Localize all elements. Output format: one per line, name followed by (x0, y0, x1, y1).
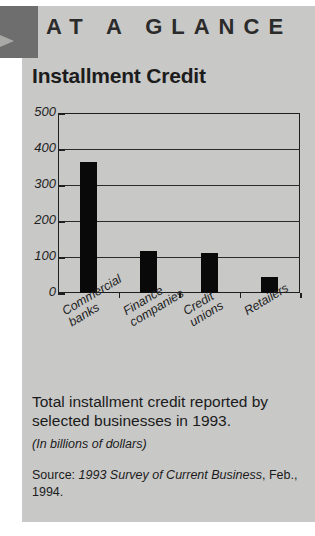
left-margin (0, 58, 22, 536)
banner-title: AT A GLANCE (46, 14, 292, 40)
triangle-right-icon (0, 30, 14, 52)
units-note: (In billions of dollars) (32, 437, 300, 451)
bottom-margin (0, 522, 315, 536)
header-accent-block (0, 6, 38, 58)
source-prefix: Source: (32, 468, 79, 482)
caption-text: Total installment credit reported by sel… (32, 392, 300, 430)
source-publication: 1993 Survey of Current Business (79, 468, 262, 482)
at-a-glance-infographic: AT A GLANCE Installment Credit 010020030… (0, 0, 315, 536)
page-title: Installment Credit (32, 64, 206, 88)
source-note: Source: 1993 Survey of Current Business,… (32, 467, 300, 501)
